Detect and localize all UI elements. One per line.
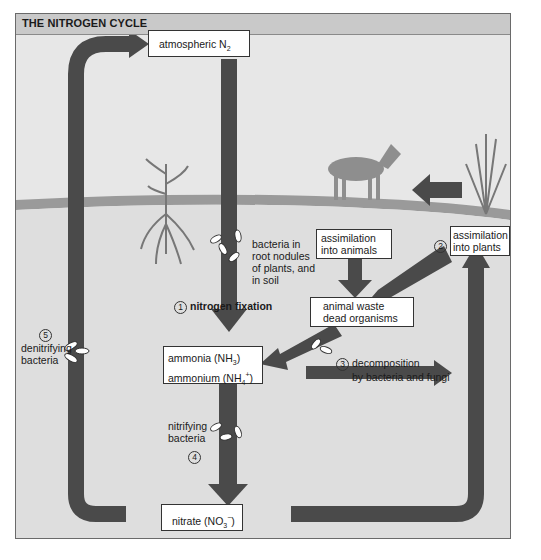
diagram-frame: THE NITROGEN CYCLE atmospheric N2 bacter… <box>15 13 511 539</box>
label-nitrogen-fixation: 1nitrogen fixation <box>174 300 272 314</box>
label-nitrifying: nitrifying bacteria 4 <box>168 420 207 464</box>
goat <box>328 144 401 200</box>
label-decomposition: 3decomposition by bacteria and fungi <box>336 357 449 383</box>
node-nitrate: nitrate (NO3−) <box>161 504 243 531</box>
fixation-arrow <box>221 59 237 309</box>
diagram-title: THE NITROGEN CYCLE <box>22 17 147 29</box>
label-denitrifying: 5 denitrifying bacteria <box>21 328 72 366</box>
step-2-label: 2 <box>434 239 450 253</box>
node-assimilation-plants: assimilation into plants <box>450 226 510 256</box>
node-animal-waste: animal waste dead organisms <box>310 297 414 327</box>
node-ammonia-ammonium: ammonia (NH3) ammonium (NH4+) <box>163 346 263 384</box>
plant-to-animal-arrow <box>429 182 462 198</box>
title-bar: THE NITROGEN CYCLE <box>16 14 510 35</box>
shrub <box>466 134 506 214</box>
label-root-bacteria: bacteria in root nodules of plants, and … <box>252 238 315 286</box>
node-assimilation-animals: assimilation into animals <box>316 229 392 259</box>
node-atmospheric-n2: atmospheric N2 <box>148 30 250 57</box>
animals-to-waste-arrow <box>348 258 362 282</box>
